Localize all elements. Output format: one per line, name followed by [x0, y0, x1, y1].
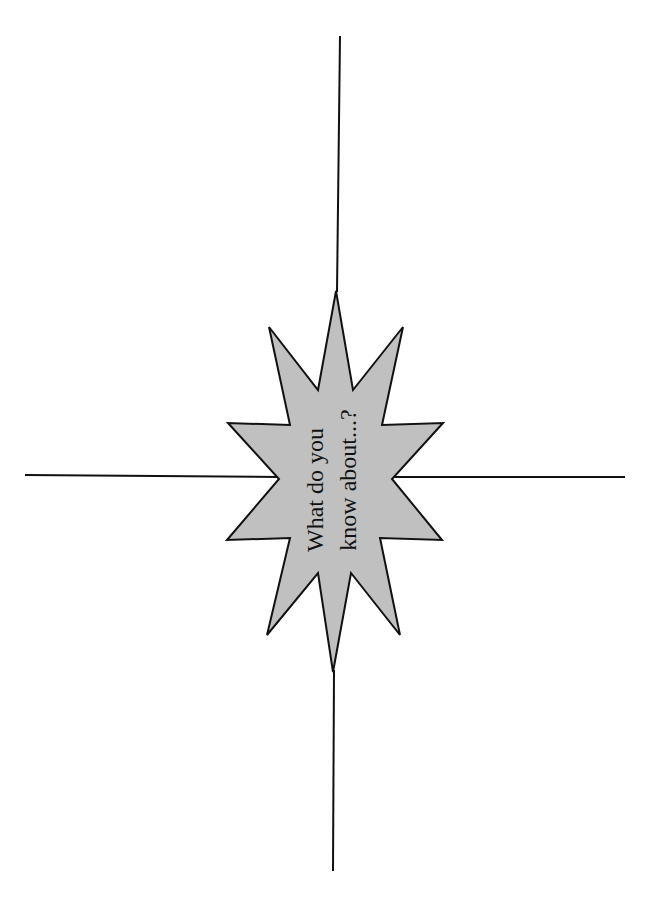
- diagram-canvas: What do you know about...?: [0, 0, 658, 904]
- starburst-text-line-2: know about...?: [335, 409, 361, 550]
- line-down: [333, 670, 334, 871]
- line-left: [25, 475, 279, 477]
- starburst-text-group-2: know about...?: [335, 409, 361, 550]
- line-up: [337, 36, 340, 292]
- starburst-text-group: What do you: [302, 428, 328, 552]
- starburst-text-line-1: What do you: [302, 428, 328, 552]
